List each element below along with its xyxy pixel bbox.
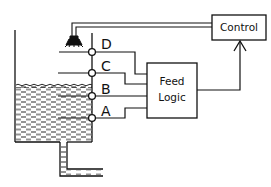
supply-pipe xyxy=(72,23,212,36)
spray-nozzle-icon xyxy=(65,36,83,47)
sensor-b-circle xyxy=(89,93,96,100)
sensor-label-b: B xyxy=(101,82,111,96)
liquid xyxy=(16,84,92,141)
sensor-c-circle xyxy=(89,70,96,77)
sensor-label-a: A xyxy=(101,104,111,118)
sensor-label-c: C xyxy=(101,59,111,73)
feed-logic-label-line2: Logic xyxy=(152,92,192,103)
sensor-a-circle xyxy=(89,115,96,122)
outlet-pipe xyxy=(60,142,103,176)
control-arrow xyxy=(197,42,240,90)
sensor-d-circle xyxy=(89,49,96,56)
control-label: Control xyxy=(212,22,266,33)
feed-logic-label-line1: Feed xyxy=(152,76,192,87)
sensor-label-d: D xyxy=(101,37,112,51)
